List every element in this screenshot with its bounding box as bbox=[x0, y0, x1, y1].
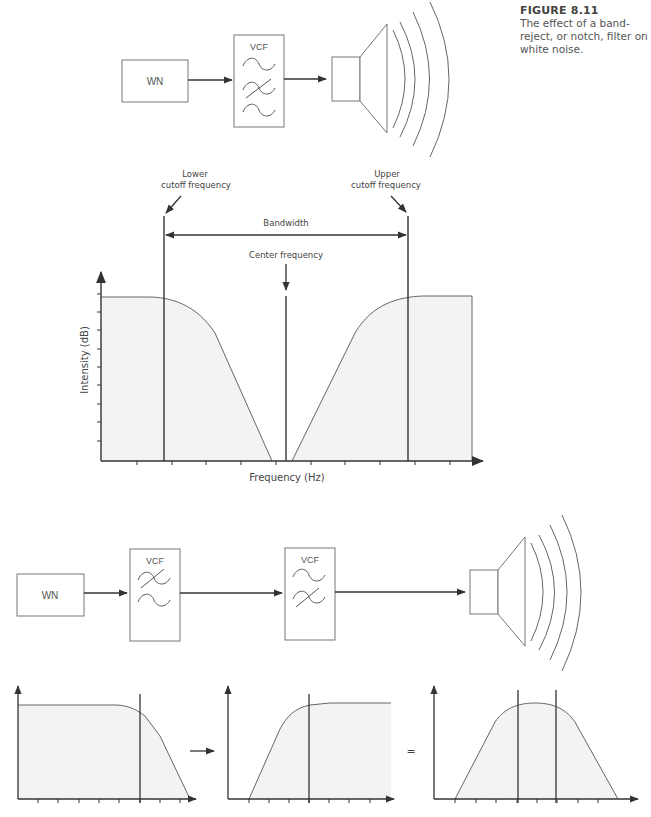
vcf1-box: VCF bbox=[130, 549, 180, 641]
speaker-icon-bottom bbox=[470, 515, 581, 671]
notch-response-chart: Bandwidth Center frequency Lower cutoff … bbox=[79, 169, 483, 483]
speaker-icon-top bbox=[332, 2, 449, 157]
wn-box-bottom: WN bbox=[17, 574, 84, 616]
x-axis-label: Frequency (Hz) bbox=[249, 472, 325, 483]
vcf2-label: VCF bbox=[301, 555, 320, 565]
wn-label-top: WN bbox=[147, 76, 164, 87]
lower-cutoff-label-line2: cutoff frequency bbox=[161, 180, 231, 190]
lowpass-chart bbox=[18, 686, 196, 803]
wn-label-bottom: WN bbox=[42, 590, 59, 601]
bottom-signal-chain: WN VCF VCF bbox=[17, 515, 581, 671]
highpass-chart bbox=[228, 686, 394, 803]
response-area-right bbox=[292, 296, 472, 461]
upper-cutoff-label-line2: cutoff frequency bbox=[351, 180, 421, 190]
lower-cutoff-label-line1: Lower bbox=[182, 169, 208, 179]
combined-chart bbox=[434, 686, 638, 803]
top-signal-chain: WN VCF bbox=[122, 2, 449, 157]
lower-cutoff-arrow bbox=[166, 196, 181, 213]
vcf1-label: VCF bbox=[146, 556, 165, 566]
bandwidth-label: Bandwidth bbox=[263, 218, 308, 228]
vcf-label-top: VCF bbox=[250, 42, 269, 52]
operator-equals: = bbox=[406, 745, 415, 758]
figure-canvas: WN VCF bbox=[0, 0, 651, 817]
vcf-box-top: VCF bbox=[234, 35, 284, 127]
response-area-left bbox=[101, 297, 272, 461]
upper-cutoff-label-line1: Upper bbox=[374, 169, 400, 179]
y-axis-label: Intensity (dB) bbox=[79, 326, 90, 394]
vcf2-box: VCF bbox=[285, 548, 335, 640]
wn-box-top: WN bbox=[122, 60, 188, 102]
center-frequency-label: Center frequency bbox=[249, 250, 323, 260]
upper-cutoff-arrow bbox=[391, 196, 406, 212]
